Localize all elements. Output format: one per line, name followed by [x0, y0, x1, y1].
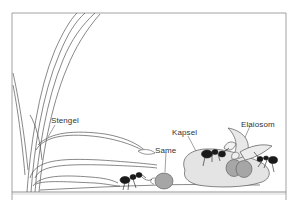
- myrmecochory-illustration: Stengel Same Kapsel Elaiosom: [0, 0, 295, 210]
- plant-stem: [13, 13, 100, 192]
- seed: [151, 173, 173, 189]
- small-leaf: [138, 150, 155, 155]
- illustration-canvas: [0, 0, 295, 210]
- label-elaiosome: Elaiosom: [241, 121, 275, 129]
- label-capsule: Kapsel: [172, 129, 197, 137]
- ground-line: [12, 192, 286, 194]
- ant-carrying-seed: [120, 173, 152, 191]
- label-stem: Stengel: [51, 117, 79, 125]
- label-seed: Same: [155, 147, 176, 155]
